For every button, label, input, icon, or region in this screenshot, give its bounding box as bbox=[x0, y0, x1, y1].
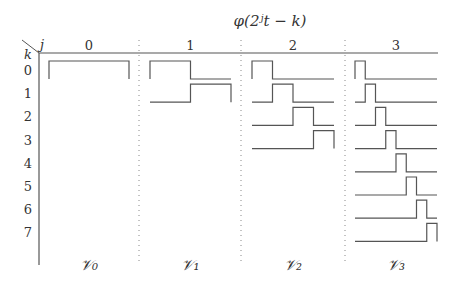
row-label-k: 1 bbox=[24, 86, 32, 101]
table-axes: j k bbox=[22, 37, 438, 265]
row-label-k: 7 bbox=[24, 225, 32, 240]
pulse-j3-k7 bbox=[355, 223, 437, 241]
row-label-k: 0 bbox=[24, 63, 32, 78]
j-axis-label: j bbox=[37, 37, 44, 52]
pulse-j3-k4 bbox=[355, 154, 437, 172]
diagram-title: φ(2ʲt − k) bbox=[234, 12, 307, 30]
row-label-k: 3 bbox=[24, 133, 32, 148]
k-axis-label: k bbox=[24, 47, 32, 62]
column-header-j: 3 bbox=[392, 38, 400, 53]
pulse-j2-k2 bbox=[252, 107, 334, 125]
row-label-k: 4 bbox=[24, 156, 32, 171]
pulse-j1-k0 bbox=[150, 61, 231, 79]
space-label: 𝒱₂ bbox=[284, 256, 302, 274]
pulse-j3-k1 bbox=[355, 84, 437, 102]
space-labels: 𝒱₀𝒱₁𝒱₂𝒱₃ bbox=[80, 256, 405, 274]
column-separators bbox=[139, 40, 345, 265]
pulse-j2-k3 bbox=[252, 131, 334, 149]
diagram-canvas: φ(2ʲt − k) j k 0123 01234567 𝒱₀𝒱₁𝒱₂𝒱₃ bbox=[0, 0, 458, 289]
pulse-j3-k6 bbox=[355, 200, 437, 218]
pulse-j0-k0 bbox=[49, 61, 129, 79]
pulse-j3-k2 bbox=[355, 107, 437, 125]
space-label: 𝒱₁ bbox=[181, 256, 199, 274]
pulse-j2-k1 bbox=[252, 84, 334, 102]
pulse-j3-k0 bbox=[355, 61, 437, 79]
column-header-j: 2 bbox=[289, 38, 297, 53]
pulse-j1-k1 bbox=[150, 84, 231, 102]
column-headers: 0123 bbox=[85, 38, 400, 53]
haar-scaling-function-diagram: φ(2ʲt − k) j k 0123 01234567 𝒱₀𝒱₁𝒱₂𝒱₃ bbox=[0, 0, 458, 289]
row-label-k: 5 bbox=[24, 179, 32, 194]
column-header-j: 0 bbox=[85, 38, 93, 53]
pulse-j2-k0 bbox=[252, 61, 334, 79]
pulse-plots bbox=[49, 61, 437, 241]
row-label-k: 2 bbox=[24, 109, 32, 124]
space-label: 𝒱₃ bbox=[387, 256, 405, 274]
pulse-j3-k5 bbox=[355, 177, 437, 195]
row-label-k: 6 bbox=[24, 202, 32, 217]
column-header-j: 1 bbox=[186, 38, 194, 53]
space-label: 𝒱₀ bbox=[80, 256, 98, 274]
pulse-j3-k3 bbox=[355, 131, 437, 149]
row-labels: 01234567 bbox=[24, 63, 32, 240]
